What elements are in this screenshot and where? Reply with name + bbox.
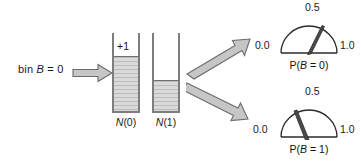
input-bin-label-prefix: bin bbox=[18, 63, 37, 75]
bin-n0-increment-label: +1 bbox=[117, 40, 129, 52]
bin-n0-fill bbox=[114, 56, 138, 111]
gauge-p-b-0-tick-min: 0.0 bbox=[255, 39, 270, 51]
gauge-p-b-1-caption-prefix: P( bbox=[290, 143, 301, 155]
bin-n0-caption: N(0) bbox=[107, 116, 145, 128]
bin-n1-caption: N(1) bbox=[147, 116, 185, 128]
bin-n1-fill bbox=[154, 80, 178, 111]
gauge-p-b-0: 0.5 0.0 1.0 P(B = 0) bbox=[255, 0, 361, 78]
diagram-canvas: bin B = 0 +1 N(0) N(1) 0.5 0.0 1.0 bbox=[0, 0, 361, 162]
gauge-p-b-1-tick-min: 0.0 bbox=[253, 123, 268, 135]
input-bin-label: bin B = 0 bbox=[18, 63, 64, 75]
gauge-p-b-0-dial bbox=[279, 14, 339, 56]
gauge-p-b-0-caption-prefix: P( bbox=[290, 59, 301, 71]
bin-n0-right-wall bbox=[138, 33, 140, 113]
bin-n1-floor bbox=[152, 111, 180, 113]
gauge-p-b-1-caption-suffix: = 1) bbox=[307, 143, 328, 155]
gauge-p-b-1-tick-mid: 0.5 bbox=[305, 85, 320, 97]
bin-n1-caption-suffix: (1) bbox=[163, 116, 176, 128]
gauge-p-b-0-tick-max: 1.0 bbox=[340, 39, 355, 51]
bin-n0-floor bbox=[112, 111, 140, 113]
gauge-p-b-1-dial bbox=[279, 98, 339, 140]
bin-n0-caption-suffix: (0) bbox=[123, 116, 136, 128]
input-arrow bbox=[72, 62, 114, 84]
gauge-p-b-0-caption: P(B = 0) bbox=[269, 59, 349, 71]
input-bin-label-variable: B bbox=[37, 63, 45, 75]
bin-n1-right-wall bbox=[178, 33, 180, 113]
gauge-p-b-0-caption-suffix: = 0) bbox=[307, 59, 328, 71]
gauge-p-b-1: 0.5 0.0 1.0 P(B = 1) bbox=[248, 84, 361, 162]
branch-arrow-lower bbox=[186, 78, 256, 126]
input-bin-label-suffix: = 0 bbox=[44, 63, 63, 75]
gauge-p-b-1-caption: P(B = 1) bbox=[269, 143, 349, 155]
gauge-p-b-1-tick-max: 1.0 bbox=[340, 123, 355, 135]
gauge-p-b-0-tick-mid: 0.5 bbox=[305, 1, 320, 13]
branch-arrow-upper bbox=[186, 34, 252, 80]
